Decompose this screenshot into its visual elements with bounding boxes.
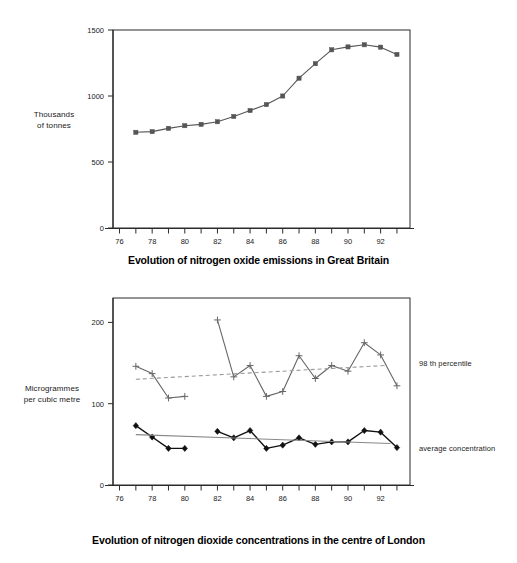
data-line-1 [136, 426, 185, 449]
x-axis-tick-label: 82 [213, 237, 221, 246]
y-axis-tick-label: 1000 [87, 92, 104, 101]
data-point-marker [395, 52, 399, 56]
data-point-marker [264, 102, 268, 106]
x-axis-tick-label: 76 [115, 494, 123, 503]
data-point-marker [132, 363, 139, 370]
y-axis-label-line-2: per cubic metre [6, 394, 98, 405]
x-axis-tick-label: 86 [279, 494, 287, 503]
y-axis-tick-label: 0 [100, 481, 104, 490]
chart-nitrogen-oxide-emissions: Thousands of tonnes 05001000150076788082… [0, 0, 517, 281]
data-point-marker [345, 368, 352, 375]
data-point-marker [134, 130, 138, 134]
data-point-marker [394, 382, 401, 389]
plot-frame [113, 30, 410, 228]
data-point-marker [181, 393, 188, 400]
data-point-marker [149, 370, 156, 377]
y-axis-label-line-1: Thousands [16, 109, 92, 120]
data-point-marker [313, 441, 318, 447]
x-axis-tick-label: 88 [311, 494, 319, 503]
data-point-marker [166, 126, 170, 130]
data-point-marker [330, 48, 334, 52]
data-line-0 [136, 366, 185, 398]
x-axis-tick-label: 88 [311, 237, 319, 246]
data-point-marker [297, 76, 301, 80]
x-axis-tick-label: 78 [148, 237, 156, 246]
data-point-marker [182, 445, 187, 451]
x-axis-tick-label: 84 [246, 237, 254, 246]
x-axis-tick-label: 90 [344, 494, 352, 503]
data-point-marker [313, 62, 317, 66]
data-point-marker [183, 124, 187, 128]
data-point-marker [248, 108, 252, 112]
data-point-marker [379, 45, 383, 49]
data-line-0 [217, 320, 397, 396]
data-point-marker [232, 114, 236, 118]
y-axis-label-line-1: Microgrammes [6, 383, 98, 394]
x-axis-tick-label: 86 [279, 237, 287, 246]
y-axis-tick-label: 0 [100, 224, 104, 233]
chart-caption-bottom: Evolution of nitrogen dioxide concentrat… [0, 534, 517, 546]
x-axis-tick-label: 84 [246, 494, 254, 503]
data-line-0 [136, 45, 397, 133]
data-point-marker [150, 130, 154, 134]
y-axis-tick-label: 200 [91, 318, 104, 327]
y-axis-tick-label: 500 [91, 158, 104, 167]
data-point-marker [215, 120, 219, 124]
y-axis-label-bottom: Microgrammes per cubic metre [6, 383, 98, 405]
data-point-marker [165, 395, 172, 402]
y-axis-tick-label: 1500 [87, 26, 104, 35]
plot-frame [113, 298, 410, 485]
x-axis-tick-label: 76 [115, 237, 123, 246]
legend-label-98th-percentile: 98 th percentile [419, 359, 472, 368]
data-point-marker [296, 352, 303, 359]
y-axis-label-top: Thousands of tonnes [16, 109, 92, 131]
data-point-marker [281, 94, 285, 98]
chart-caption-top: Evolution of nitrogen oxide emissions in… [0, 254, 517, 266]
x-axis-tick-label: 78 [148, 494, 156, 503]
x-axis-tick-label: 80 [181, 237, 189, 246]
x-axis-tick-label: 92 [376, 237, 384, 246]
data-point-marker [263, 393, 270, 400]
data-point-marker [230, 373, 237, 380]
data-point-marker [247, 362, 254, 369]
x-axis-tick-label: 90 [344, 237, 352, 246]
x-axis-tick-label: 92 [376, 494, 384, 503]
data-point-marker [280, 442, 285, 448]
legend-label-average-concentration: average concentration [419, 444, 495, 453]
data-point-marker [199, 122, 203, 126]
data-point-marker [346, 45, 350, 49]
data-line-1 [217, 431, 397, 449]
data-point-marker [214, 317, 221, 324]
y-axis-label-line-2: of tonnes [16, 120, 92, 131]
x-axis-tick-label: 80 [181, 494, 189, 503]
chart-nitrogen-dioxide-concentrations: Microgrammes per cubic metre 01002007678… [0, 282, 517, 563]
data-point-marker [279, 388, 286, 395]
data-point-marker [362, 43, 366, 47]
x-axis-tick-label: 82 [213, 494, 221, 503]
data-point-marker [215, 428, 220, 434]
